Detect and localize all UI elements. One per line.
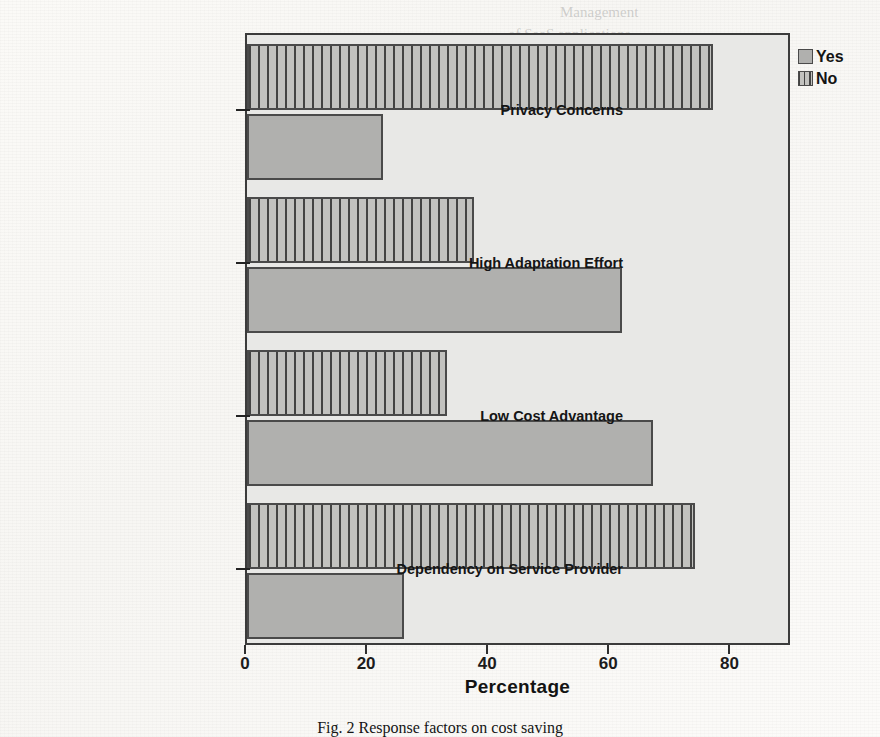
bar-chart-figure: Privacy ConcernsHigh Adaptation EffortLo… bbox=[0, 0, 880, 737]
figure-caption: Fig. 2 Response factors on cost saving bbox=[0, 719, 880, 737]
category-label: Low Cost Advantage bbox=[480, 408, 623, 424]
x-tick-mark bbox=[244, 645, 246, 654]
x-tick-label: 60 bbox=[599, 654, 618, 674]
legend: Yes No bbox=[798, 46, 872, 90]
x-tick-mark bbox=[365, 645, 367, 654]
bar-yes bbox=[247, 267, 622, 333]
legend-swatch-yes-icon bbox=[798, 49, 813, 64]
category-label: Privacy Concerns bbox=[500, 102, 623, 118]
category-tick-mark bbox=[236, 109, 250, 111]
x-tick-label: 0 bbox=[240, 654, 249, 674]
bar-no bbox=[247, 503, 695, 569]
bars-container bbox=[247, 35, 788, 643]
category-tick-mark bbox=[236, 415, 250, 417]
x-axis-title: Percentage bbox=[245, 676, 790, 698]
bar-no bbox=[247, 350, 447, 416]
category-tick-mark bbox=[236, 262, 250, 264]
category-tick-mark bbox=[236, 568, 250, 570]
category-label: Dependency on Service Provider bbox=[397, 561, 623, 577]
x-tick-label: 40 bbox=[478, 654, 497, 674]
legend-item-no[interactable]: No bbox=[798, 68, 872, 89]
bar-yes bbox=[247, 420, 653, 486]
x-tick-label: 20 bbox=[357, 654, 376, 674]
category-label: High Adaptation Effort bbox=[469, 255, 623, 271]
legend-item-yes[interactable]: Yes bbox=[798, 46, 872, 67]
legend-label-no: No bbox=[816, 71, 837, 87]
x-tick-mark bbox=[486, 645, 488, 654]
bar-no bbox=[247, 197, 474, 263]
bar-yes bbox=[247, 573, 404, 639]
bar-yes bbox=[247, 114, 383, 180]
x-tick-label: 80 bbox=[720, 654, 739, 674]
x-tick-mark bbox=[728, 645, 730, 654]
legend-label-yes: Yes bbox=[816, 49, 844, 65]
bar-no bbox=[247, 44, 713, 110]
x-tick-mark bbox=[607, 645, 609, 654]
plot-area bbox=[245, 33, 790, 645]
legend-swatch-no-icon bbox=[798, 71, 813, 86]
